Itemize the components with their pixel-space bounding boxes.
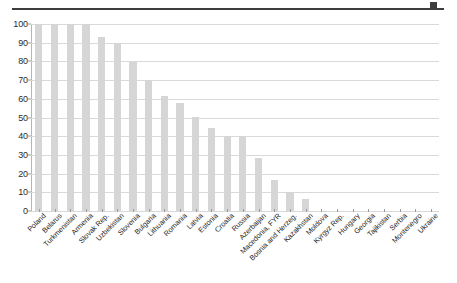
bars-group	[31, 24, 439, 211]
y-axis-label: 50	[0, 113, 28, 122]
bar	[51, 24, 58, 211]
y-axis-label: 100	[0, 20, 28, 29]
y-axis-label: 70	[0, 76, 28, 85]
bar	[224, 136, 231, 211]
y-axis-label: 10	[0, 188, 28, 197]
chart-figure: 0102030405060708090100 PolandBelarusTurk…	[0, 0, 457, 283]
bar	[114, 43, 121, 211]
x-axis-tick-labels: PolandBelarusTurkmenistanArmeniaSlovak R…	[31, 212, 439, 282]
bar	[35, 24, 42, 211]
bar	[176, 103, 183, 211]
bar	[82, 24, 89, 211]
y-axis-label: 80	[0, 57, 28, 66]
top-divider-rule	[12, 8, 444, 10]
corner-mark-icon	[430, 2, 437, 9]
bar	[192, 117, 199, 211]
bar	[67, 24, 74, 211]
bar	[129, 62, 136, 211]
bar	[271, 180, 278, 211]
bar	[145, 80, 152, 211]
bar	[161, 96, 168, 211]
bar	[98, 37, 105, 211]
y-axis-label: 60	[0, 94, 28, 103]
y-axis-tick-labels: 0102030405060708090100	[0, 24, 28, 211]
y-axis-label: 40	[0, 132, 28, 141]
y-axis-label: 20	[0, 169, 28, 178]
y-axis-label: 90	[0, 38, 28, 47]
bar	[255, 158, 262, 211]
y-axis-label: 30	[0, 150, 28, 159]
y-axis-label: 0	[0, 207, 28, 216]
bar	[208, 128, 215, 211]
bar	[239, 136, 246, 211]
